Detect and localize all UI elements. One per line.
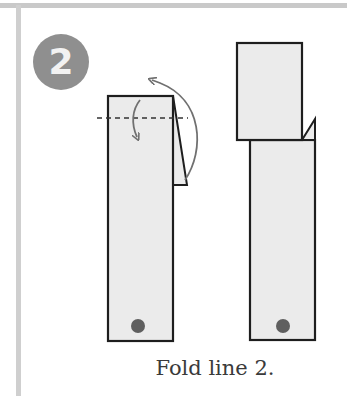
folded-top-flap: [237, 43, 302, 140]
hole-dot-left: [131, 319, 145, 333]
side-flap-left: [173, 96, 187, 185]
step-caption: Fold line 2.: [140, 356, 290, 380]
before-fold-panel: [97, 80, 197, 341]
after-fold-panel: [237, 43, 315, 340]
paper-strip-right: [250, 140, 315, 340]
hole-dot-right: [276, 319, 290, 333]
side-flap-right: [302, 119, 315, 140]
fold-diagram: [0, 0, 347, 396]
paper-strip-left: [108, 96, 173, 341]
